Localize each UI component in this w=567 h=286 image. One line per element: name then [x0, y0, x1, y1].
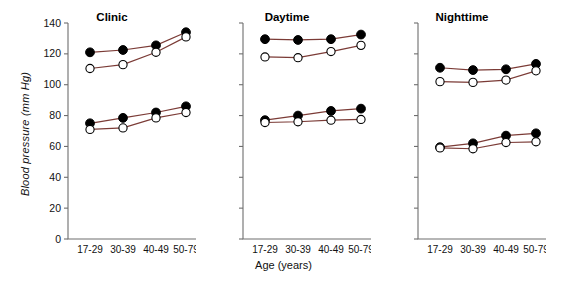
series-line	[265, 45, 361, 57]
data-point-filled	[357, 30, 366, 39]
data-point-filled	[502, 65, 511, 74]
x-tick-label: 17-29	[252, 244, 278, 255]
data-point-filled	[327, 35, 336, 44]
y-tick-label: 140	[43, 17, 61, 29]
data-point-open	[294, 118, 302, 126]
x-tick-label: 40-49	[493, 244, 519, 255]
x-tick-label: 30-39	[285, 244, 311, 255]
data-point-open	[502, 76, 510, 84]
data-point-open	[182, 33, 190, 41]
series-line	[440, 64, 536, 70]
data-point-open	[119, 61, 127, 69]
x-tick-label: 17-29	[427, 244, 453, 255]
x-tick-label: 50-79	[348, 244, 371, 255]
panel-nighttime: Nighttime 17-2930-3940-4950-79	[378, 0, 546, 286]
y-tick-label: 40	[49, 171, 61, 183]
axis-spine	[418, 23, 546, 239]
data-point-open	[532, 138, 540, 146]
data-point-filled	[436, 63, 445, 72]
data-point-open	[119, 124, 127, 132]
series-line	[440, 71, 536, 83]
data-point-open	[152, 114, 160, 122]
data-point-open	[327, 47, 335, 55]
data-point-open	[261, 53, 269, 61]
data-point-open	[327, 116, 335, 124]
data-point-open	[152, 48, 160, 56]
y-tick-label: 20	[49, 202, 61, 214]
x-tick-label: 30-39	[460, 244, 486, 255]
data-point-filled	[532, 129, 541, 138]
y-tick-label: 60	[49, 140, 61, 152]
data-point-open	[357, 41, 365, 49]
plot-area-clinic: 02040608010012014017-2930-3940-4950-79	[28, 0, 196, 286]
data-point-open	[261, 118, 269, 126]
plot-area-daytime: 17-2930-3940-4950-79	[203, 0, 371, 286]
data-point-filled	[119, 46, 128, 55]
data-point-open	[436, 78, 444, 86]
x-tick-label: 40-49	[318, 244, 344, 255]
data-point-open	[532, 67, 540, 75]
x-tick-label: 40-49	[143, 244, 169, 255]
data-point-filled	[294, 36, 303, 45]
x-tick-label: 50-79	[173, 244, 196, 255]
series-line	[90, 37, 186, 69]
x-tick-label: 50-79	[523, 244, 546, 255]
data-point-filled	[469, 66, 478, 75]
series-line	[265, 109, 361, 121]
series-line	[265, 119, 361, 122]
data-point-open	[182, 108, 190, 116]
data-point-filled	[119, 113, 128, 122]
data-point-open	[436, 144, 444, 152]
y-tick-label: 120	[43, 47, 61, 59]
data-point-open	[469, 78, 477, 86]
plot-area-nighttime: 17-2930-3940-4950-79	[378, 0, 546, 286]
panel-clinic: Clinic 02040608010012014017-2930-3940-49…	[28, 0, 196, 286]
x-tick-label: 17-29	[77, 244, 103, 255]
y-tick-label: 100	[43, 78, 61, 90]
data-point-open	[469, 145, 477, 153]
series-line	[440, 133, 536, 147]
data-point-open	[86, 64, 94, 72]
panel-daytime: Daytime 17-2930-3940-4950-79	[203, 0, 371, 286]
x-tick-label: 30-39	[110, 244, 136, 255]
y-tick-label: 0	[55, 233, 61, 245]
data-point-open	[294, 54, 302, 62]
data-point-open	[502, 138, 510, 146]
data-point-filled	[327, 107, 336, 116]
data-point-filled	[357, 104, 366, 113]
blood-pressure-by-age-figure: Blood pressure (mm Hg) Age (years) Clini…	[0, 0, 567, 286]
data-point-filled	[261, 35, 270, 44]
y-tick-label: 80	[49, 109, 61, 121]
series-line	[265, 35, 361, 40]
data-point-open	[86, 125, 94, 133]
data-point-open	[357, 115, 365, 123]
series-line	[90, 32, 186, 52]
data-point-filled	[86, 48, 95, 57]
